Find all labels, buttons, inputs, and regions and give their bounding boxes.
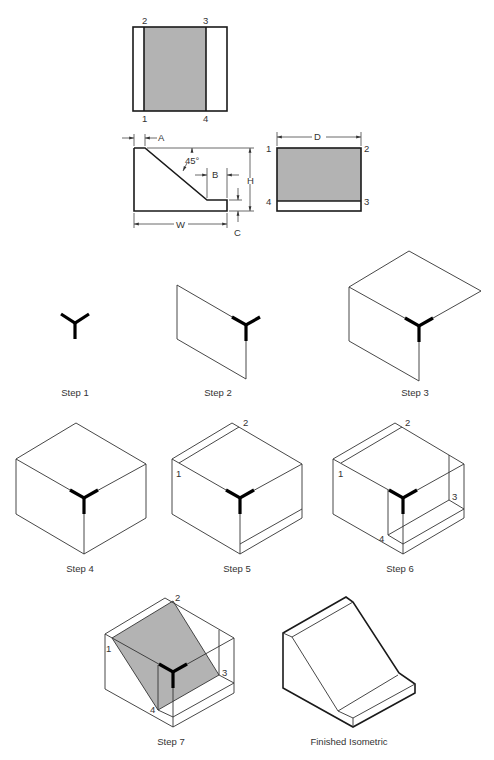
step-5-point-1: 1 [176,468,181,479]
step-7-point-1: 1 [106,643,111,654]
isometric-construction-diagram: 2 3 1 4 A 45° B H C [0,0,494,760]
step-4-label: Step 4 [66,563,93,574]
top-view-point-4: 4 [203,113,208,124]
dim-d: D [314,131,321,142]
dim-a: A [158,132,165,143]
step-5-point-2: 2 [243,417,248,428]
step-7-label: Step 7 [157,736,184,747]
side-view-point-4: 4 [266,196,271,207]
dim-w: W [176,219,185,230]
iso-axis-icon [61,314,89,323]
side-view-point-2: 2 [364,143,369,154]
step-6-point-4: 4 [379,533,384,544]
step-4: Step 4 [16,423,146,574]
step-6-point-1: 1 [338,468,343,479]
step-5: 1 2 Step 5 [172,417,302,574]
front-view: A 45° B H C W [122,132,254,238]
step-5-label: Step 5 [223,563,250,574]
step-2: Step 2 [177,285,260,398]
step-6-point-3: 3 [452,491,457,502]
top-view-point-2: 2 [142,15,147,26]
step-1: Step 1 [61,314,89,398]
dim-angle: 45° [185,155,200,166]
finished-isometric: Finished Isometric [283,597,415,747]
dim-b: B [212,169,218,180]
step-7: 1 2 3 4 Step 7 [105,592,234,747]
top-view: 2 3 1 4 [133,15,227,124]
step-6-label: Step 6 [386,563,413,574]
step-6: 1 2 3 4 Step 6 [333,417,464,574]
side-view-point-1: 1 [266,143,271,154]
side-view-point-3: 3 [364,196,369,207]
step-3-label: Step 3 [401,387,428,398]
dim-c: C [234,227,241,238]
step-7-point-4: 4 [150,704,155,715]
top-view-point-1: 1 [142,113,147,124]
step-1-label: Step 1 [61,387,88,398]
step-7-point-2: 2 [175,592,180,603]
top-view-point-3: 3 [203,15,208,26]
step-2-label: Step 2 [204,387,231,398]
finished-isometric-label: Finished Isometric [310,736,387,747]
step-7-point-3: 3 [222,667,227,678]
dim-h: H [247,175,254,186]
step-3: Step 3 [349,251,481,398]
side-view: D 1 2 4 3 [266,131,369,211]
step-6-point-2: 2 [405,417,410,428]
